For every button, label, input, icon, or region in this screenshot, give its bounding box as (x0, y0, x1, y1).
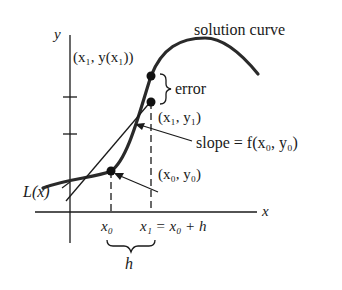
slope-label: slope = f(x₀, y₀) (196, 135, 298, 151)
solution-curve-label: solution curve (194, 22, 285, 38)
tangent-line (66, 100, 152, 201)
y-axis-label: y (54, 27, 61, 42)
initial-point-arrow-line (118, 175, 158, 192)
error-brace (160, 74, 171, 104)
error-label: error (175, 81, 206, 97)
true-point-label: (x₁, y(x₁)) (73, 50, 133, 65)
approx-point-label: (x₁, y₁) (158, 110, 201, 125)
slope-arrow-line (140, 125, 192, 141)
x-axis-label: x (262, 204, 269, 219)
true-point (147, 72, 156, 81)
x1-tick-label: x₁ = x₀ + h (140, 219, 207, 234)
step-label: h (125, 256, 133, 272)
tangent-line-label: L(x) (23, 184, 50, 200)
euler-method-diagram: y x solution curve (x₁, y(x₁)) error (x₁… (0, 0, 342, 290)
initial-point (107, 167, 116, 176)
approx-point (147, 98, 156, 107)
h-brace (107, 240, 155, 252)
x0-tick-label: x₀ (101, 219, 113, 234)
initial-point-label: (x₀, y₀) (158, 167, 201, 182)
